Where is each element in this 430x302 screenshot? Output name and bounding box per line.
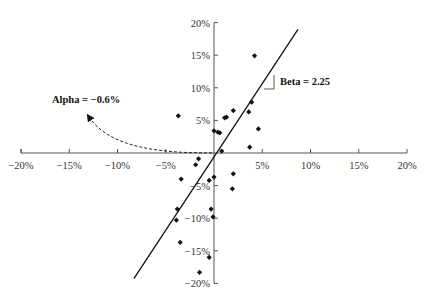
data-point-diamond [211, 175, 216, 180]
data-point-diamond [252, 53, 257, 58]
x-tick-label: −15% [57, 160, 82, 171]
regression-line-path [134, 29, 298, 278]
axes [21, 23, 407, 284]
y-tick-label: −5% [190, 181, 210, 192]
data-point-diamond [176, 113, 181, 118]
data-points [174, 53, 261, 275]
regression-line [134, 29, 298, 278]
y-tick-label: −15% [185, 246, 210, 257]
y-tick-label: −20% [185, 278, 210, 289]
data-point-diamond [210, 214, 215, 219]
data-point-diamond [209, 206, 214, 211]
data-point-diamond [249, 100, 254, 105]
data-point-diamond [193, 162, 198, 167]
data-point-diamond [178, 240, 183, 245]
beta-annotation: Beta = 2.25 [264, 75, 330, 89]
y-tick-label: 5% [196, 115, 210, 126]
x-tick-label: −5% [156, 160, 176, 171]
scatter-chart: −20%−15%−10%−5%5%10%15%20% 20%15%10%5%−5… [0, 0, 430, 302]
x-tick-label: −20% [8, 160, 33, 171]
y-tick-label: 10% [191, 83, 211, 94]
data-point-diamond [231, 108, 236, 113]
data-point-diamond [179, 176, 184, 181]
data-point-diamond [230, 186, 235, 191]
x-tick-label: 20% [397, 160, 417, 171]
data-point-diamond [246, 109, 251, 114]
data-point-diamond [256, 126, 261, 131]
beta-label: Beta = 2.25 [280, 76, 330, 87]
alpha-label: Alpha = −0.6% [52, 94, 120, 105]
data-point-diamond [174, 218, 179, 223]
y-tick-label: −10% [185, 213, 210, 224]
alpha-annotation: Alpha = −0.6% [52, 94, 212, 153]
y-tick-label: 15% [191, 50, 211, 61]
x-tick-label: 15% [349, 160, 369, 171]
y-tick-label: 20% [191, 18, 211, 29]
data-point-diamond [231, 171, 236, 176]
beta-slope-triangle [264, 75, 274, 89]
data-point-diamond [247, 145, 252, 150]
alpha-dashed-arrow [89, 117, 212, 153]
data-point-diamond [197, 270, 202, 275]
data-point-diamond [196, 156, 201, 161]
x-tick-label: 10% [301, 160, 321, 171]
x-tick-label: −10% [105, 160, 130, 171]
x-tick-label: 5% [255, 160, 269, 171]
